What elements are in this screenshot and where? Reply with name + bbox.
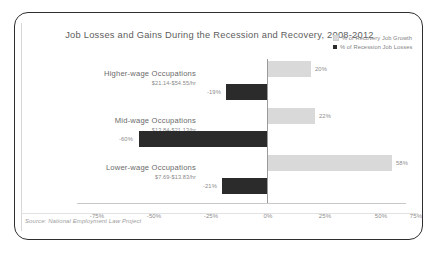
zero-axis-line [267, 59, 268, 204]
bar-recovery-mid-wage [268, 108, 315, 124]
bar-recession-higher-wage [226, 84, 267, 100]
bar-recovery-lower-wage [268, 155, 392, 171]
legend-swatch-icon-recession [333, 45, 337, 49]
bar-value-recovery-mid-wage: 22% [319, 113, 331, 119]
legend-item-recession-job-losses: % of Recession Job Losses [333, 44, 423, 50]
chart-panel: Job Losses and Gains During the Recessio… [14, 12, 423, 240]
legend-swatch-icon-recovery [333, 35, 339, 41]
legend-item-recovery-job-growth: % of Recovery Job Growth [333, 35, 423, 41]
bar-value-recovery-lower-wage: 58% [396, 160, 408, 166]
bar-recovery-higher-wage [268, 61, 311, 77]
category-label-higher-wage: Higher-wage Occupations $21.14-$54.55/hr [21, 69, 196, 86]
axis-baseline [77, 203, 406, 204]
bar-value-recession-mid-wage: -60% [119, 136, 133, 142]
bar-recession-mid-wage [139, 131, 267, 147]
legend-label-recovery: % of Recovery Job Growth [342, 35, 412, 41]
bar-value-recovery-higher-wage: 20% [315, 66, 327, 72]
bar-recession-lower-wage [222, 178, 267, 194]
footer-divider [21, 213, 418, 214]
legend-label-recession: % of Recession Job Losses [340, 44, 412, 50]
bar-value-recession-higher-wage: -19% [207, 89, 221, 95]
bar-value-recession-lower-wage: -21% [203, 183, 217, 189]
category-label-lower-wage: Lower-wage Occupations $7.69-$13.83/hr [21, 163, 196, 180]
plot-area: Higher-wage Occupations $21.14-$54.55/hr… [15, 51, 423, 211]
source-note: Source: National Employment Law Project [25, 218, 141, 224]
